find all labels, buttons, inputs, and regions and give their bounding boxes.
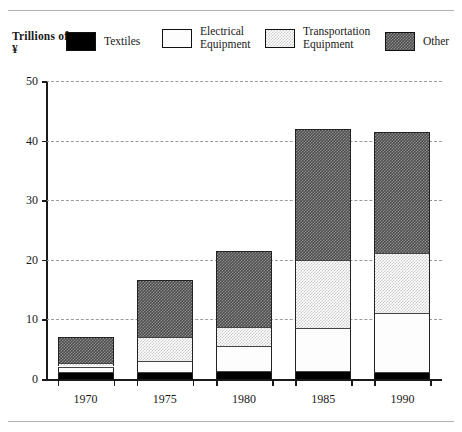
legend-label-transportation-equipment: Transportation Equipment — [303, 25, 370, 51]
bar-1975 — [137, 280, 193, 379]
x-axis-tick-mark — [137, 379, 139, 386]
y-axis-tick-mark — [42, 200, 47, 202]
x-axis-tick-mark — [351, 379, 353, 386]
y-axis-tick-label: 10 — [26, 313, 38, 325]
white-swatch-icon — [162, 29, 192, 48]
bar-1980 — [216, 251, 272, 379]
bar-segment-1985-textiles — [295, 371, 351, 379]
y-axis-line — [46, 81, 48, 379]
x-axis-tick-mark — [193, 379, 195, 386]
y-axis-tick-mark — [42, 141, 47, 143]
bar-segment-1985-other — [295, 129, 351, 260]
chart-figure: Trillions of ¥ Textiles Electrical Equip… — [0, 0, 462, 432]
y-axis-title: Trillions of ¥ — [12, 30, 70, 56]
y-axis-tick-mark — [42, 81, 47, 83]
bar-1985 — [295, 129, 351, 379]
bar-segment-1970-electrical — [58, 367, 114, 372]
light-hatch-swatch-icon — [265, 29, 295, 48]
legend-label-textiles: Textiles — [104, 35, 140, 48]
x-axis-tick-mark — [430, 379, 432, 386]
x-axis-tick-label-1990: 1990 — [390, 393, 414, 405]
x-axis-tick-label-1985: 1985 — [311, 393, 335, 405]
legend-item-transportation-equipment: Transportation Equipment — [265, 25, 370, 51]
x-axis-tick-mark — [216, 379, 218, 386]
y-axis-tick-label: 20 — [26, 254, 38, 266]
legend-item-textiles: Textiles — [66, 32, 140, 51]
x-axis-tick-mark — [114, 379, 116, 386]
bar-segment-1980-textiles — [216, 371, 272, 379]
bar-1970 — [58, 337, 114, 379]
y-axis-tick-mark — [42, 379, 47, 381]
bar-segment-1970-other — [58, 337, 114, 363]
bar-segment-1980-electrical — [216, 346, 272, 372]
x-axis-tick-label-1980: 1980 — [232, 393, 256, 405]
y-axis-tick-label: 50 — [26, 75, 38, 87]
bar-segment-1975-textiles — [137, 372, 193, 379]
gridline — [46, 81, 442, 82]
x-axis-tick-mark — [295, 379, 297, 386]
bar-segment-1990-textiles — [374, 372, 430, 379]
y-axis-tick-mark — [42, 319, 47, 321]
y-axis-tick-label: 30 — [26, 194, 38, 206]
solid-black-swatch-icon — [66, 32, 96, 51]
bar-segment-1990-transport — [374, 253, 430, 314]
legend-label-other: Other — [423, 35, 449, 48]
bar-segment-1975-other — [137, 280, 193, 337]
top-divider — [8, 10, 454, 11]
bar-segment-1970-transport — [58, 363, 114, 367]
bar-segment-1985-transport — [295, 260, 351, 328]
legend-item-other: Other — [385, 32, 449, 51]
x-axis-tick-label-1975: 1975 — [153, 393, 177, 405]
bar-segment-1980-other — [216, 251, 272, 327]
x-axis-line — [46, 379, 442, 381]
dark-hatch-swatch-icon — [385, 32, 415, 51]
y-axis-tick-mark — [42, 260, 47, 262]
x-axis-tick-label-1970: 1970 — [74, 393, 98, 405]
bar-segment-1980-transport — [216, 327, 272, 345]
bar-1990 — [374, 132, 430, 379]
bar-segment-1990-other — [374, 132, 430, 253]
bottom-divider — [8, 421, 454, 422]
x-axis-tick-mark — [272, 379, 274, 386]
y-axis-tick-label: 0 — [32, 373, 38, 385]
bar-segment-1975-electrical — [137, 361, 193, 372]
legend-label-electrical-equipment: Electrical Equipment — [200, 25, 250, 51]
bar-segment-1990-electrical — [374, 313, 430, 371]
x-axis-tick-mark — [374, 379, 376, 386]
plot-area: 0102030405019701975198019851990 — [46, 81, 442, 379]
y-axis-tick-label: 40 — [26, 135, 38, 147]
legend-item-electrical-equipment: Electrical Equipment — [162, 25, 250, 51]
chart-legend: Trillions of ¥ Textiles Electrical Equip… — [10, 22, 456, 66]
bar-segment-1970-textiles — [58, 372, 114, 379]
bar-segment-1975-transport — [137, 337, 193, 361]
x-axis-tick-mark — [58, 379, 60, 386]
bar-segment-1985-electrical — [295, 328, 351, 371]
